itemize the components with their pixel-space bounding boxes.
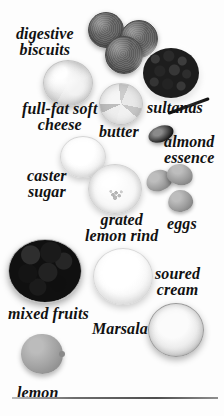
marsala-glass xyxy=(148,303,204,357)
label-grated-lemon-rind: grated lemon rind xyxy=(85,212,158,245)
lemon-nub-icon xyxy=(59,351,65,357)
label-sultanas: sultanas xyxy=(147,100,203,116)
egg-3 xyxy=(167,188,195,213)
mixed-fruits-bowl xyxy=(8,239,82,303)
label-caster-sugar: caster sugar xyxy=(27,168,67,201)
bottom-divider xyxy=(12,397,218,399)
label-marsala: Marsala xyxy=(92,321,148,337)
label-full-fat-soft-cheese: full-fat soft cheese xyxy=(22,101,98,134)
soured-cream-bowl xyxy=(93,248,153,305)
digestive-biscuit-3 xyxy=(105,36,143,74)
sultanas-bowl xyxy=(143,48,199,98)
label-almond-essence: almond essence xyxy=(164,134,214,167)
label-digestive-biscuits: digestive biscuits xyxy=(16,26,74,59)
butter-block xyxy=(99,83,143,125)
label-soured-cream: soured cream xyxy=(155,266,200,299)
grated-lemon-rind-bowl xyxy=(88,164,142,214)
label-butter: butter xyxy=(99,124,139,140)
label-lemon: lemon xyxy=(17,385,58,401)
label-mixed-fruits: mixed fruits xyxy=(8,306,89,322)
ingredients-photo: digestive biscuits sultanas full-fat sof… xyxy=(0,0,224,416)
label-eggs: eggs xyxy=(167,216,197,232)
lemon-fruit xyxy=(21,334,63,374)
